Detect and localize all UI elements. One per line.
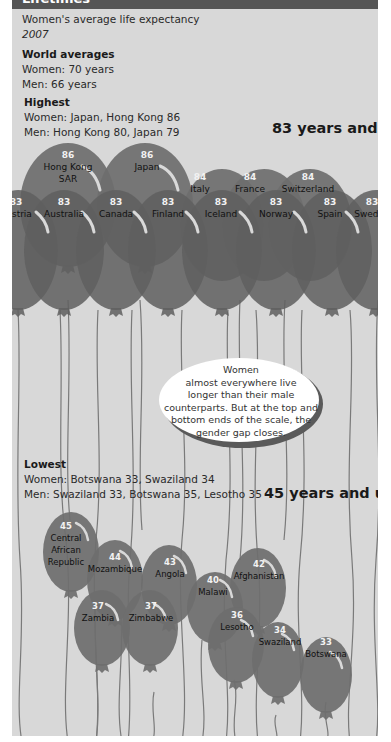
- svg-text:83: 83: [110, 197, 123, 207]
- svg-text:SAR: SAR: [59, 174, 77, 184]
- svg-text:83: 83: [12, 197, 22, 207]
- svg-text:Angola: Angola: [155, 569, 184, 579]
- world-averages-men: Men: 66 years: [22, 77, 97, 92]
- svg-text:Lesotho: Lesotho: [220, 622, 253, 632]
- world-averages-women: Women: 70 years: [22, 62, 114, 77]
- svg-text:Mozambique: Mozambique: [88, 564, 142, 574]
- svg-text:83: 83: [58, 197, 71, 207]
- svg-text:86: 86: [141, 150, 154, 160]
- highest-heading: Highest: [24, 95, 70, 110]
- svg-text:Switzerland: Switzerland: [282, 184, 335, 194]
- svg-text:Zambia: Zambia: [82, 613, 114, 623]
- svg-text:83: 83: [215, 197, 228, 207]
- svg-text:Hong Kong: Hong Kong: [44, 162, 93, 172]
- callout-text: Women almost everywhere live longer than…: [157, 364, 325, 439]
- svg-text:Italy: Italy: [190, 184, 210, 194]
- svg-text:Spain: Spain: [317, 209, 342, 219]
- svg-text:Republic: Republic: [48, 557, 85, 567]
- highest-group-label: 83 years and over: [272, 120, 378, 136]
- svg-text:83: 83: [366, 197, 378, 207]
- infographic-panel: Lifetimes: [12, 0, 378, 736]
- svg-text:37: 37: [145, 601, 157, 611]
- subtitle: Women's average life expectancy: [22, 12, 199, 27]
- svg-text:Canada: Canada: [99, 209, 133, 219]
- svg-text:86: 86: [62, 150, 75, 160]
- svg-text:43: 43: [164, 557, 176, 567]
- svg-text:84: 84: [244, 172, 257, 182]
- svg-text:Botswana: Botswana: [305, 649, 347, 659]
- svg-text:83: 83: [324, 197, 337, 207]
- svg-text:84: 84: [194, 172, 207, 182]
- svg-text:Iceland: Iceland: [205, 209, 238, 219]
- svg-text:France: France: [235, 184, 265, 194]
- svg-text:83: 83: [162, 197, 175, 207]
- svg-text:African: African: [51, 545, 81, 555]
- highest-men: Men: Hong Kong 80, Japan 79: [24, 125, 180, 140]
- lowest-men: Men: Swaziland 33, Botswana 35, Lesotho …: [24, 487, 262, 502]
- svg-text:37: 37: [92, 601, 104, 611]
- svg-text:83: 83: [270, 197, 283, 207]
- svg-text:45: 45: [60, 521, 72, 531]
- svg-text:Central: Central: [51, 533, 82, 543]
- lowest-heading: Lowest: [24, 457, 66, 472]
- svg-text:33: 33: [320, 637, 332, 647]
- svg-text:Norway: Norway: [259, 209, 294, 219]
- svg-text:Afghanistan: Afghanistan: [234, 571, 285, 581]
- svg-text:Finland: Finland: [152, 209, 184, 219]
- svg-text:Zimbabwe: Zimbabwe: [129, 613, 174, 623]
- svg-text:Swaziland: Swaziland: [259, 637, 302, 647]
- lowest-group-label: 45 years and under: [264, 485, 378, 501]
- year: 2007: [22, 27, 49, 42]
- callout-bubble: Women almost everywhere live longer than…: [157, 356, 325, 456]
- highest-women: Women: Japan, Hong Kong 86: [24, 110, 180, 125]
- svg-text:84: 84: [302, 172, 315, 182]
- world-averages-heading: World averages: [22, 47, 115, 62]
- svg-text:36: 36: [231, 610, 243, 620]
- svg-text:40: 40: [207, 575, 219, 585]
- svg-text:Australia: Australia: [44, 209, 84, 219]
- svg-text:Japan: Japan: [133, 162, 159, 172]
- svg-text:44: 44: [109, 552, 121, 562]
- svg-text:Austria: Austria: [12, 209, 32, 219]
- lowest-women: Women: Botswana 33, Swaziland 34: [24, 472, 215, 487]
- svg-text:42: 42: [253, 559, 265, 569]
- svg-text:Sweden: Sweden: [354, 209, 378, 219]
- svg-text:Malawi: Malawi: [198, 587, 227, 597]
- svg-text:34: 34: [274, 625, 286, 635]
